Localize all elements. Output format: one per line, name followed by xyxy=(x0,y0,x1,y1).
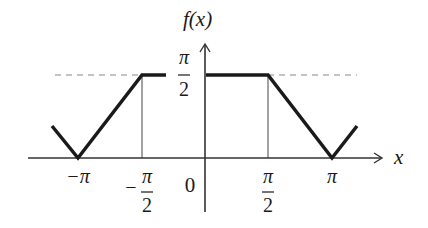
x-tick-pi: π xyxy=(327,165,338,187)
x-tick-minus-pi: −π xyxy=(66,165,90,187)
x-tick-zero: 0 xyxy=(185,173,196,197)
x-tick-minus-sign: − xyxy=(125,176,136,198)
y-tick-2: 2 xyxy=(179,78,189,100)
function-plot: f(x) π 2 x −π − π 2 0 π 2 π xyxy=(0,0,428,228)
x-tick-half-pi-num: π xyxy=(263,165,274,187)
x-axis-label: x xyxy=(393,145,404,169)
x-tick-half-pi-den: 2 xyxy=(263,194,273,216)
y-axis-label: f(x) xyxy=(183,7,212,31)
curve-right xyxy=(206,75,357,158)
curve-left xyxy=(52,75,166,158)
x-tick-minus-half-pi-den: 2 xyxy=(142,194,152,216)
y-tick-pi: π xyxy=(179,46,190,68)
x-tick-minus-half-pi-num: π xyxy=(142,165,153,187)
